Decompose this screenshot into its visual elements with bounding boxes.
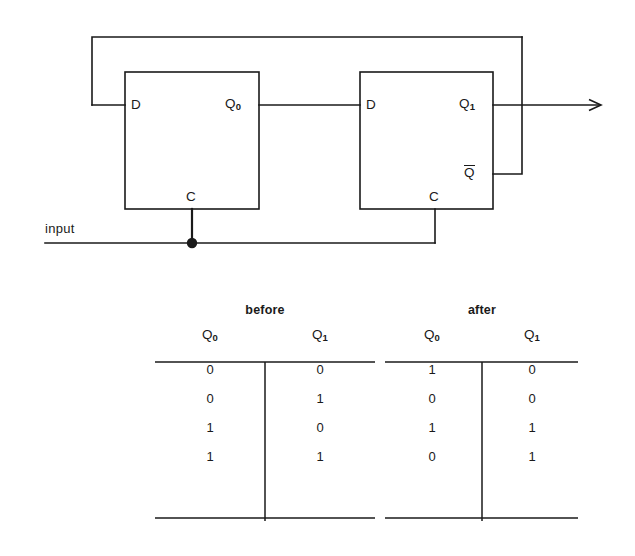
cell-q0: 1 xyxy=(155,420,265,435)
table-row: 1 0 xyxy=(382,355,582,384)
flipflop-0-q-label: Q0 xyxy=(225,97,241,112)
table-row: 0 0 xyxy=(155,355,375,384)
flipflop-0-d-label: D xyxy=(131,98,141,112)
cell-q0: 0 xyxy=(155,391,265,406)
table-after-body: 1 0 0 0 1 1 0 1 xyxy=(382,355,582,471)
table-after-header-row: Q0 Q1 xyxy=(382,327,582,343)
flipflop-1-q-label: Q1 xyxy=(459,97,475,112)
cell-q1: 0 xyxy=(265,420,375,435)
table-before-header-row: Q0 Q1 xyxy=(155,327,375,343)
cell-q1: 1 xyxy=(482,420,582,435)
table-row: 1 0 xyxy=(155,413,375,442)
cell-q1: 1 xyxy=(265,449,375,464)
cell-q0: 1 xyxy=(382,420,482,435)
feedback-wire-top xyxy=(92,37,522,105)
table-before-caption: before xyxy=(155,303,375,317)
flipflop-1-d-label: D xyxy=(366,98,376,112)
cell-q0: 1 xyxy=(382,362,482,377)
flipflop-1-c-label: C xyxy=(429,190,439,204)
input-label: input xyxy=(45,222,75,235)
table-after-header-q0: Q0 xyxy=(382,327,482,343)
table-after-caption: after xyxy=(382,303,582,317)
table-before-header-q1: Q1 xyxy=(265,327,375,343)
table-before-body: 0 0 0 1 1 0 1 1 xyxy=(155,355,375,471)
table-row: 0 0 xyxy=(382,384,582,413)
cell-q1: 0 xyxy=(265,362,375,377)
cell-q1: 0 xyxy=(482,362,582,377)
flipflop-1-qbar-label: Q xyxy=(464,165,475,180)
cell-q1: 0 xyxy=(482,391,582,406)
table-before-header-q0: Q0 xyxy=(155,327,265,343)
cell-q0: 0 xyxy=(382,449,482,464)
flipflop-0-c-label: C xyxy=(186,190,196,204)
table-row: 1 1 xyxy=(382,413,582,442)
flipflop-1-body xyxy=(360,72,493,209)
table-after-header-q1: Q1 xyxy=(482,327,582,343)
table-row: 0 1 xyxy=(155,384,375,413)
cell-q1: 1 xyxy=(482,449,582,464)
figure-root: D Q0 C D Q1 Q C input before Q0 Q1 xyxy=(0,0,635,556)
table-row: 0 1 xyxy=(382,442,582,471)
cell-q0: 0 xyxy=(155,362,265,377)
circuit-diagram xyxy=(0,0,635,556)
cell-q1: 1 xyxy=(265,391,375,406)
table-row: 1 1 xyxy=(155,442,375,471)
clock-junction-dot xyxy=(187,238,197,248)
cell-q0: 1 xyxy=(155,449,265,464)
cell-q0: 0 xyxy=(382,391,482,406)
